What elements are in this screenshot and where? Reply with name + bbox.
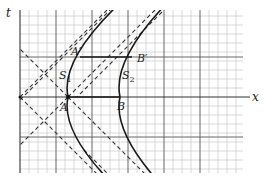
- point-b-label: B: [116, 100, 125, 113]
- curve-s2-label: S2: [122, 69, 135, 84]
- point-b-prime-label: B′: [136, 52, 148, 65]
- spacetime-diagram: t x A B A′ B′ S1 S2: [0, 0, 265, 183]
- hyperbola-s1: [67, 2, 121, 183]
- grid-minor: [20, 10, 243, 173]
- point-a-dot: [66, 95, 70, 99]
- axes: [20, 10, 250, 173]
- point-a-prime-label: A′: [70, 45, 82, 58]
- t-axis-label: t: [6, 6, 11, 20]
- grid-major: [20, 10, 243, 173]
- x-axis-label: x: [252, 90, 259, 104]
- hyperbola-s2: [119, 2, 168, 183]
- origin-dot: [19, 96, 22, 99]
- point-a-label: A: [59, 101, 68, 114]
